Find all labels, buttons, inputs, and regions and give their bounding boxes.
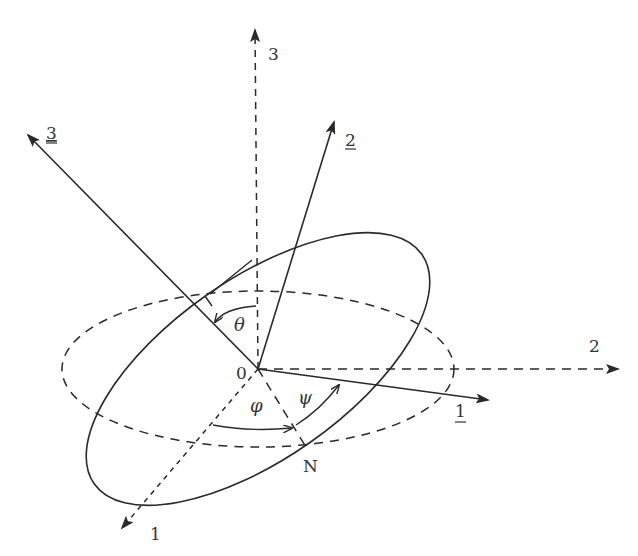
perpendicular-marker [205,260,252,306]
body-axis-3 [28,135,258,369]
label-body-2: 2 [345,130,356,150]
label-body-3: 3 [46,123,57,143]
label-fixed-1: 1 [150,524,161,544]
label-fixed-3: 3 [268,44,279,64]
line-of-nodes [258,369,306,447]
fixed-axis-1 [122,369,258,528]
euler-angles-diagram: 3 2 1 3 2 1 0 N θ φ ψ [0,0,638,556]
label-psi: ψ [298,387,313,408]
phi-arc [213,425,292,429]
label-origin: 0 [236,363,247,383]
label-phi: φ [250,395,263,416]
label-fixed-2: 2 [589,336,600,356]
label-node-N: N [303,456,318,476]
fixed-axis-3 [255,30,258,369]
label-body-1: 1 [455,401,466,421]
label-theta: θ [234,314,245,335]
body-axis-2 [258,122,334,369]
